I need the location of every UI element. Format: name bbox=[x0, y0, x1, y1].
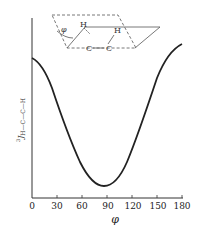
svg-text:3JH—C—C—H: 3JH—C—C—H bbox=[15, 98, 26, 142]
y-axis-label: 3JH—C—C—H bbox=[15, 98, 26, 142]
diagram-label-c1: C bbox=[86, 44, 92, 53]
diagram-label-h2: H bbox=[114, 26, 121, 35]
x-tick-label: 180 bbox=[173, 201, 190, 211]
x-tick-label: 150 bbox=[149, 201, 166, 211]
x-tick-label: 60 bbox=[76, 201, 88, 211]
karplus-chart: 0 30 60 90 120 150 180 φ 3JH—C—C—H H H C… bbox=[0, 0, 206, 234]
x-tick-label: 30 bbox=[51, 201, 63, 211]
x-tick-label: 90 bbox=[102, 201, 114, 211]
karplus-curve bbox=[32, 44, 182, 186]
diagram-label-h1: H bbox=[80, 20, 87, 29]
x-tick-label: 120 bbox=[124, 201, 141, 211]
x-axis-label: φ bbox=[111, 213, 119, 226]
diagram-label-c2: C bbox=[106, 44, 112, 53]
diagram-label-phi: φ bbox=[61, 25, 67, 34]
x-tick-label: 0 bbox=[29, 201, 35, 211]
